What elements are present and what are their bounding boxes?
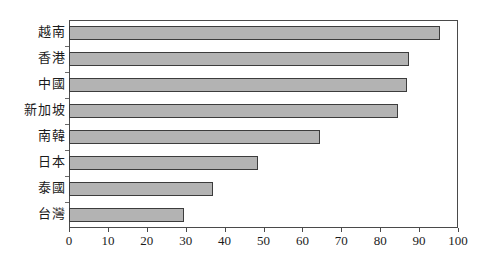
bar-chart: 越南香港中國新加坡南韓日本泰國台灣 0102030405060708090100 [0, 0, 488, 265]
category-label: 香港 [0, 51, 66, 65]
tick-mark [380, 228, 381, 232]
tick-label: 40 [218, 233, 231, 249]
bar [69, 26, 440, 40]
tick-label: 50 [257, 233, 270, 249]
tick-mark [225, 228, 226, 232]
tick-label: 10 [101, 233, 114, 249]
tick-mark [186, 228, 187, 232]
tick-mark [264, 228, 265, 232]
bar [69, 78, 407, 92]
bar [69, 156, 258, 170]
tick-mark [108, 228, 109, 232]
category-label: 泰國 [0, 181, 66, 195]
y-axis-tick-mark [65, 176, 69, 177]
tick-label: 20 [140, 233, 153, 249]
tick-mark [458, 228, 459, 232]
tick-label: 90 [413, 233, 426, 249]
bar [69, 208, 184, 222]
tick-label: 0 [66, 233, 73, 249]
category-axis-labels: 越南香港中國新加坡南韓日本泰國台灣 [0, 20, 66, 228]
y-axis-tick-mark [65, 46, 69, 47]
category-label: 南韓 [0, 129, 66, 143]
tick-mark [419, 228, 420, 232]
y-axis-tick-mark [65, 124, 69, 125]
bar [69, 104, 398, 118]
bar [69, 182, 213, 196]
tick-mark [147, 228, 148, 232]
tick-mark [69, 228, 70, 232]
bar [69, 52, 409, 66]
category-label: 中國 [0, 77, 66, 91]
tick-label: 30 [179, 233, 192, 249]
tick-mark [341, 228, 342, 232]
y-axis-tick-mark [65, 202, 69, 203]
bars-layer [69, 20, 458, 228]
tick-mark [302, 228, 303, 232]
tick-label: 60 [296, 233, 309, 249]
x-axis-tick-labels: 0102030405060708090100 [0, 233, 488, 255]
tick-label: 70 [335, 233, 348, 249]
y-axis-tick-mark [65, 150, 69, 151]
bar [69, 130, 320, 144]
tick-label: 100 [448, 233, 468, 249]
category-label: 台灣 [0, 207, 66, 221]
tick-label: 80 [374, 233, 387, 249]
category-label: 越南 [0, 25, 66, 39]
category-label: 新加坡 [0, 103, 66, 117]
y-axis-tick-mark [65, 98, 69, 99]
category-label: 日本 [0, 155, 66, 169]
y-axis-tick-mark [65, 72, 69, 73]
